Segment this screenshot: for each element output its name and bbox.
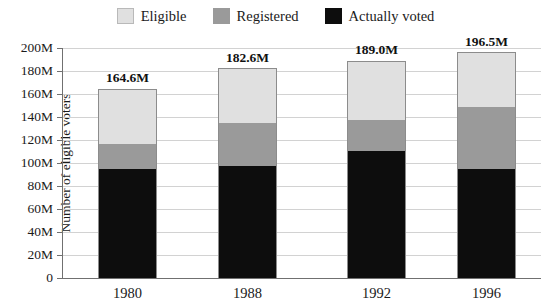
bar-segment-actually-voted-1980[interactable] [99, 169, 156, 278]
bar-total-label-1988: 182.6M [226, 51, 269, 65]
bar-segment-eligible-1996[interactable] [458, 53, 515, 106]
y-tick-mark-40M [57, 232, 62, 233]
bar-segment-actually-voted-1996[interactable] [458, 169, 515, 278]
bar-segment-eligible-1988[interactable] [219, 69, 276, 123]
x-tick-label-1988: 1988 [233, 286, 262, 301]
y-tick-label-160M: 160M [21, 87, 53, 101]
y-tick-label-180M: 180M [21, 64, 53, 78]
bar-segment-eligible-1980[interactable] [99, 90, 156, 145]
y-tick-mark-80M [57, 186, 62, 187]
y-tick-mark-200M [57, 48, 62, 49]
y-tick-label-20M: 20M [27, 248, 53, 262]
bar-group-1988[interactable]: 182.6M1988 [218, 48, 277, 278]
bar-group-1992[interactable]: 189.0M1992 [347, 48, 406, 278]
bar-segment-eligible-1992[interactable] [348, 62, 405, 121]
bar-group-1996[interactable]: 196.5M1996 [457, 48, 516, 278]
y-tick-label-60M: 60M [27, 202, 53, 216]
bar-segment-registered-1996[interactable] [458, 107, 515, 169]
bar-segment-actually-voted-1988[interactable] [219, 166, 276, 278]
y-tick-mark-180M [57, 71, 62, 72]
legend-swatch-actually-voted [325, 8, 342, 24]
y-tick-mark-120M [57, 140, 62, 141]
y-tick-label-100M: 100M [21, 156, 53, 170]
legend-label-eligible: Eligible [141, 9, 187, 24]
y-tick-mark-160M [57, 94, 62, 95]
bar-total-label-1996: 196.5M [465, 35, 508, 49]
y-tick-mark-140M [57, 117, 62, 118]
stacked-bar-chart: Eligible Registered Actually voted Numbe… [0, 0, 551, 304]
legend-label-registered: Registered [237, 9, 299, 24]
legend-item-registered: Registered [213, 8, 299, 24]
stacked-bar-1992[interactable] [347, 61, 406, 278]
bar-segment-registered-1992[interactable] [348, 120, 405, 151]
y-tick-mark-0 [57, 278, 62, 279]
x-axis-line [62, 278, 541, 279]
legend-swatch-eligible [117, 8, 134, 24]
chart-legend: Eligible Registered Actually voted [0, 8, 551, 24]
bar-segment-registered-1980[interactable] [99, 144, 156, 168]
y-tick-label-120M: 120M [21, 133, 53, 147]
bar-total-label-1980: 164.6M [106, 71, 149, 85]
y-tick-label-40M: 40M [27, 225, 53, 239]
bar-total-label-1992: 189.0M [355, 43, 398, 57]
x-tick-label-1980: 1980 [113, 286, 142, 301]
stacked-bar-1980[interactable] [98, 89, 157, 278]
bar-segment-registered-1988[interactable] [219, 123, 276, 167]
legend-item-actually-voted: Actually voted [325, 8, 435, 24]
y-tick-label-0: 0 [46, 271, 53, 285]
legend-label-actually-voted: Actually voted [349, 9, 435, 24]
legend-swatch-registered [213, 8, 230, 24]
legend-item-eligible: Eligible [117, 8, 187, 24]
x-tick-label-1992: 1992 [362, 286, 391, 301]
y-tick-label-80M: 80M [27, 179, 53, 193]
y-tick-label-140M: 140M [21, 110, 53, 124]
y-tick-mark-100M [57, 163, 62, 164]
plot-area: 200M180M160M140M120M100M80M60M40M20M0164… [62, 48, 541, 278]
y-axis-title-wrap: Number of eligible voters [2, 48, 20, 278]
bar-group-1980[interactable]: 164.6M1980 [98, 48, 157, 278]
bar-segment-actually-voted-1992[interactable] [348, 151, 405, 278]
y-tick-mark-60M [57, 209, 62, 210]
stacked-bar-1988[interactable] [218, 68, 277, 278]
x-tick-label-1996: 1996 [472, 286, 501, 301]
y-tick-mark-20M [57, 255, 62, 256]
stacked-bar-1996[interactable] [457, 52, 516, 278]
y-tick-label-200M: 200M [21, 41, 53, 55]
